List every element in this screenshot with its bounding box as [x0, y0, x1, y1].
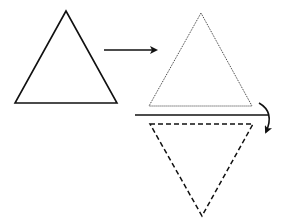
translated-triangle-dotted	[149, 13, 252, 106]
reflected-triangle-dashed	[150, 124, 253, 216]
diagram-canvas	[0, 0, 291, 224]
flip-arrow	[259, 103, 269, 132]
original-triangle	[15, 11, 117, 103]
